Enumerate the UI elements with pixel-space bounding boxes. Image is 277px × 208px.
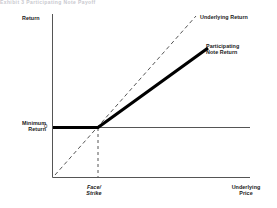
y-axis-label: Return bbox=[22, 15, 40, 21]
strike-tick-label: Face/ Strike bbox=[74, 184, 114, 197]
participating-note-legend-label: Participating Note Return bbox=[206, 43, 239, 56]
participating-note-return-line bbox=[53, 48, 208, 128]
participating-note-legend-line2: Note Return bbox=[206, 49, 239, 55]
x-axis-label-line2: Price bbox=[222, 190, 270, 196]
x-axis-label: Underlying Price bbox=[222, 184, 270, 197]
minimum-return-label-line2: Return bbox=[6, 126, 46, 132]
minimum-return-label: Minimum Return bbox=[6, 120, 46, 133]
underlying-return-legend-label: Underlying Return bbox=[200, 14, 248, 20]
zero-tick-label: 0 bbox=[44, 123, 47, 129]
chart-canvas bbox=[0, 0, 277, 208]
strike-tick-label-line2: Strike bbox=[74, 190, 114, 196]
underlying-return-line bbox=[55, 16, 196, 175]
payoff-diagram-figure: Exhibit 3 Participating Note Payoff Retu… bbox=[0, 0, 277, 208]
